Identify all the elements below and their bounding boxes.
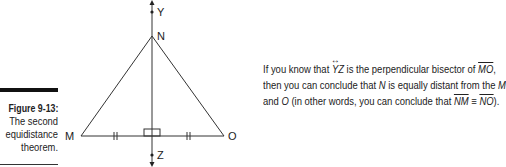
segment-mo-notation: MO	[478, 63, 493, 75]
theorem-explanation: If you know that YZ is the perpendicular…	[263, 61, 506, 109]
text-line-1: If you know that YZ is the perpendicular…	[263, 61, 506, 77]
label-m: M	[65, 130, 74, 142]
arrow-up-icon	[150, 0, 155, 5]
point-z	[150, 153, 153, 156]
label-z: Z	[157, 149, 164, 161]
label-o: O	[228, 130, 237, 142]
point-y	[150, 10, 153, 13]
arrow-down-icon	[150, 162, 155, 167]
segment-nm	[81, 36, 152, 136]
text-line-3: and O (in other words, you can conclude …	[263, 93, 506, 109]
segment-no-notation: NO	[479, 95, 493, 107]
segment-nm-notation: NM	[454, 95, 469, 107]
line-yz-notation: YZ	[332, 61, 344, 77]
label-n: N	[157, 30, 165, 42]
label-y: Y	[157, 6, 165, 18]
segment-no	[152, 36, 224, 136]
text-line-2: then you can conclude that N is equally …	[263, 77, 506, 93]
